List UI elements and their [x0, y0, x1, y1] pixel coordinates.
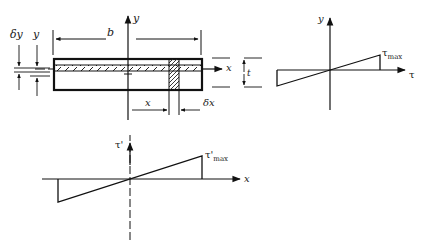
svg-text:x: x [145, 97, 151, 108]
svg-text:τ: τ [409, 69, 415, 80]
svg-text:τ'max: τ'max [205, 149, 228, 163]
svg-text:x: x [244, 173, 250, 184]
svg-text:δy: δy [10, 28, 24, 41]
svg-text:y: y [132, 12, 140, 25]
cross-section: y x b t δy y x δx [10, 12, 262, 120]
torsion-thin-rectangle-diagram: y x b t δy y x δx [0, 0, 423, 252]
width-stress-plot: τ' x τ'max [42, 135, 250, 240]
svg-text:x: x [226, 62, 232, 73]
element-hatch [169, 59, 179, 90]
svg-text:y: y [32, 28, 40, 41]
svg-text:δx: δx [203, 97, 215, 108]
svg-text:τmax: τmax [382, 47, 402, 61]
thickness-stress-plot: y τ τmax [277, 13, 415, 110]
svg-text:t: t [247, 68, 251, 78]
svg-text:τ': τ' [115, 139, 123, 150]
svg-text:b: b [107, 26, 114, 39]
svg-text:y: y [317, 13, 324, 24]
